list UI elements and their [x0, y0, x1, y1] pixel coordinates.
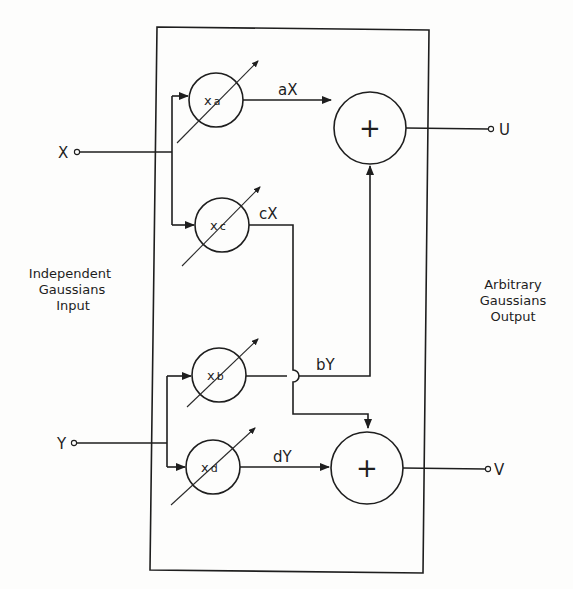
- multiplier-b-prefix: x: [207, 368, 215, 383]
- input-x-label: X: [58, 144, 68, 162]
- right-caption: Arbitrary Gaussians Output: [480, 277, 547, 324]
- left-caption-line-1: Independent: [29, 266, 111, 281]
- gaussian-mixing-diagram: X Y xa xc xb xd aX: [0, 0, 573, 589]
- multiplier-b-sub: b: [217, 370, 224, 383]
- terminal-u: [488, 126, 493, 131]
- right-caption-line-1: Arbitrary: [484, 277, 542, 292]
- left-caption-line-3: Input: [56, 298, 90, 313]
- plus-icon: +: [356, 453, 378, 483]
- summer-u: +: [334, 92, 406, 164]
- signal-label-cx: cX: [259, 205, 278, 223]
- input-y-label: Y: [56, 435, 67, 453]
- input-x: X: [58, 96, 194, 225]
- input-y: Y: [56, 376, 191, 467]
- multiplier-d-prefix: x: [201, 460, 209, 475]
- multiplier-c-prefix: x: [210, 218, 218, 233]
- terminal-v: [485, 466, 490, 471]
- signal-label-ax: aX: [278, 81, 297, 99]
- output-u-label: U: [499, 121, 510, 139]
- summer-v: +: [331, 432, 403, 504]
- multiplier-c: xc: [182, 187, 260, 266]
- output-v-label: V: [494, 461, 505, 479]
- multiplier-b: xb: [187, 339, 258, 407]
- multiplier-a: xa: [177, 61, 258, 143]
- wire-v-out: [403, 468, 485, 469]
- left-caption: Independent Gaussians Input: [29, 266, 111, 313]
- terminal-y: [71, 440, 76, 445]
- wire-by-b: [299, 166, 370, 376]
- right-caption-line-3: Output: [490, 309, 535, 324]
- wire-cx: [249, 225, 368, 428]
- multiplier-a-prefix: x: [204, 93, 212, 108]
- wire-u-out: [406, 128, 488, 129]
- left-caption-line-2: Gaussians: [39, 282, 106, 297]
- multiplier-d-sub: d: [211, 462, 218, 475]
- multiplier-a-sub: a: [214, 95, 221, 108]
- plus-icon: +: [359, 113, 381, 143]
- multiplier-c-sub: c: [220, 220, 226, 233]
- signal-label-by: bY: [316, 356, 336, 374]
- terminal-x: [74, 149, 79, 154]
- right-caption-line-2: Gaussians: [480, 293, 547, 308]
- signal-label-dy: dY: [273, 448, 293, 466]
